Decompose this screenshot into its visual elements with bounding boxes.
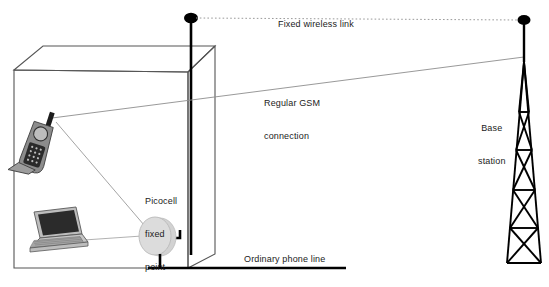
tower-x4a <box>513 190 538 228</box>
laptop-screen <box>38 210 79 236</box>
label-base-station-line1: Base <box>478 123 506 134</box>
rooftop-antenna-dot <box>184 13 198 23</box>
fixed-wireless-link-line <box>196 18 519 20</box>
tower-x4b <box>510 190 535 228</box>
tower-x5a <box>510 228 541 263</box>
label-regular-gsm-line2: connection <box>264 131 320 142</box>
label-picocell-line2: fixed <box>145 229 177 240</box>
tower-x1a <box>519 62 524 112</box>
tower-x1b <box>524 62 529 112</box>
tower-antenna-dot <box>518 15 531 25</box>
label-ordinary-phone-line: Ordinary phone line <box>244 254 325 265</box>
laptop-computer <box>30 207 88 252</box>
diagram-canvas: Fixed wireless link Regular GSM connecti… <box>0 0 549 287</box>
label-base-station: Base station <box>478 101 506 189</box>
label-regular-gsm-connection: Regular GSM connection <box>264 76 320 164</box>
cordless-handset <box>8 105 60 180</box>
building-roof-face <box>14 46 215 72</box>
label-picocell-line3: point <box>145 262 177 273</box>
tower-x5b <box>507 228 538 263</box>
laptop-to-picocell-line <box>84 236 142 240</box>
label-picocell-fixed-point: Picocell fixed point <box>145 174 177 287</box>
rooftop-antenna-mast <box>184 13 198 255</box>
label-regular-gsm-line1: Regular GSM <box>264 98 320 109</box>
label-picocell-line1: Picocell <box>145 196 177 207</box>
label-base-station-line2: station <box>478 156 506 167</box>
label-fixed-wireless-link: Fixed wireless link <box>278 19 354 30</box>
lattice-tower <box>507 15 541 263</box>
